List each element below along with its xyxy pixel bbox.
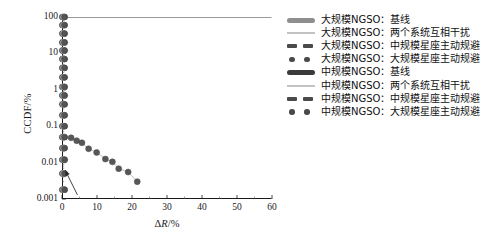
- x-tick-label: 30: [162, 203, 172, 213]
- legend: 大规模NGSO：基线大规模NGSO：两个系统互相干扰大规模NGSO：中规模星座主…: [286, 13, 492, 119]
- x-tick-label: 10: [92, 203, 102, 213]
- x-tick-label: 40: [197, 203, 207, 213]
- legend-glyph-dash-left: [287, 97, 297, 100]
- legend-marker-dashed-icon: [286, 92, 316, 105]
- axis-ticks: [62, 17, 272, 199]
- legend-glyph-thin-line: [287, 85, 315, 87]
- x-tick-label: 50: [232, 203, 242, 213]
- legend-marker-dots-icon: [286, 105, 316, 118]
- plot-canvas: [0, 0, 285, 245]
- legend-glyph-thick-bar-dark: [287, 70, 315, 75]
- legend-item[interactable]: 中规模NGSO：中规模星座主动规避: [286, 92, 492, 105]
- legend-marker-thick-bar-dark-icon: [286, 66, 316, 79]
- legend-glyph-thick-bar: [287, 18, 315, 23]
- legend-item[interactable]: 大规模NGSO：两个系统互相干扰: [286, 26, 492, 39]
- legend-glyph-dash-right: [303, 97, 313, 100]
- legend-marker-thick-bar-icon: [286, 13, 316, 26]
- legend-glyph-dot-left: [289, 109, 295, 115]
- legend-item-label: 中规模NGSO：基线: [321, 67, 410, 77]
- legend-item-label: 中规模NGSO：大规模星座主动规避: [321, 107, 480, 117]
- legend-glyph-dot-right: [304, 109, 310, 115]
- legend-item[interactable]: 中规模NGSO：两个系统互相干扰: [286, 79, 492, 92]
- legend-item-label: 中规模NGSO：两个系统互相干扰: [321, 81, 470, 91]
- legend-item[interactable]: 中规模NGSO：基线: [286, 66, 492, 79]
- legend-marker-dashed-icon: [286, 39, 316, 52]
- x-tick-label: 0: [60, 203, 65, 213]
- legend-glyph-dash-right: [303, 44, 313, 47]
- legend-item[interactable]: 大规模NGSO：基线: [286, 13, 492, 26]
- x-tick-label: 20: [127, 203, 137, 213]
- legend-item-label: 大规模NGSO：大规模星座主动规避: [321, 54, 480, 64]
- legend-item-label: 大规模NGSO：基线: [321, 15, 410, 25]
- legend-marker-thin-line-icon: [286, 26, 316, 39]
- plot-area: 1001010.10.010.001 CCDF/% ΔR/% 010203040…: [0, 0, 285, 245]
- x-tick-label: 60: [267, 203, 277, 213]
- chart-figure: 1001010.10.010.001 CCDF/% ΔR/% 010203040…: [0, 0, 492, 245]
- legend-marker-dots-icon: [286, 53, 316, 66]
- legend-item-label: 大规模NGSO：两个系统互相干扰: [321, 28, 470, 38]
- legend-item[interactable]: 大规模NGSO：大规模星座主动规避: [286, 53, 492, 66]
- legend-item-label: 大规模NGSO：中规模星座主动规避: [321, 41, 480, 51]
- legend-marker-thin-line-icon: [286, 79, 316, 92]
- legend-item[interactable]: 大规模NGSO：中规模星座主动规避: [286, 39, 492, 52]
- legend-item[interactable]: 中规模NGSO：大规模星座主动规避: [286, 105, 492, 118]
- legend-glyph-dot-left: [289, 57, 295, 63]
- legend-item-label: 中规模NGSO：中规模星座主动规避: [321, 94, 480, 104]
- legend-glyph-dot-right: [304, 57, 310, 63]
- data-series-group: [59, 14, 140, 193]
- legend-glyph-dash-left: [287, 44, 297, 47]
- legend-glyph-thin-line: [287, 32, 315, 34]
- series-7: [68, 135, 140, 185]
